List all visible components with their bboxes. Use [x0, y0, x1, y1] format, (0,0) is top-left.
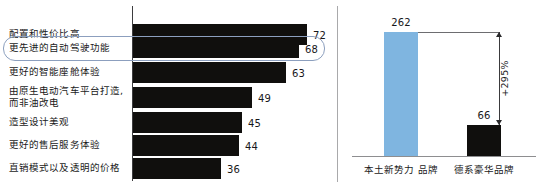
- bar-track: 68: [133, 39, 337, 58]
- horizontal-bar-chart: 配置和性价比高 72 更先进的自动驾驶功能 68 更好的智能座舱体验 63 由原…: [0, 0, 337, 188]
- bar-fill: [133, 39, 299, 58]
- bar-row[interactable]: 更好的智能座舱体验 63: [0, 62, 337, 83]
- bar-row[interactable]: 直销模式以及透明的价格 36: [0, 158, 337, 179]
- bar-fill: [133, 158, 221, 179]
- column-bar-local-brands[interactable]: 262 本土新势力 品牌: [384, 32, 418, 156]
- bar-row-label: 更好的智能座舱体验: [9, 66, 129, 78]
- delta-percentage-label: +295%: [499, 59, 510, 99]
- bar-value-label: 45: [248, 117, 261, 128]
- bar-row-label: 造型设计美观: [9, 116, 129, 128]
- bar-track: 45: [133, 112, 337, 133]
- column-category-label: 本土新势力 品牌: [364, 162, 438, 176]
- bar-value-label: 36: [227, 163, 240, 174]
- bar-track: 63: [133, 62, 337, 83]
- bar-row-label: 配置和性价比高: [9, 28, 129, 40]
- column-category-label: 德系豪华品牌: [454, 162, 515, 176]
- bar-fill: [133, 62, 286, 83]
- chart-figure: 配置和性价比高 72 更先进的自动驾驶功能 68 更好的智能座舱体验 63 由原…: [0, 0, 545, 188]
- bar-value-label: 68: [305, 43, 318, 54]
- bar-row-label: 由原生电动汽车平台打造, 而非油改电: [9, 85, 129, 108]
- bar-fill: [133, 112, 242, 133]
- bar-row-label: 直销模式以及透明的价格: [9, 162, 129, 174]
- bar-track: 36: [133, 158, 337, 179]
- right-chart-baseline: [352, 156, 536, 157]
- leader-line-top: [418, 32, 499, 33]
- bar-value-label: 44: [245, 140, 258, 151]
- bar-row[interactable]: 造型设计美观 45: [0, 112, 337, 133]
- column-bar-german-luxury[interactable]: 66 德系豪华品牌: [467, 125, 501, 156]
- bar-row[interactable]: 由原生电动汽车平台打造, 而非油改电 49: [0, 87, 337, 108]
- bar-fill: [133, 87, 252, 108]
- bar-row-label: 更先进的自动驾驶功能: [9, 42, 129, 54]
- bar-row[interactable]: 更好的售后服务体验 44: [0, 135, 337, 156]
- bar-row-label: 更好的售后服务体验: [9, 139, 129, 151]
- bar-value-label: 63: [292, 67, 305, 78]
- vertical-column-chart: 262 本土新势力 品牌 66 德系豪华品牌 +295%: [338, 0, 545, 188]
- bar-value-label: 49: [258, 92, 271, 103]
- column-value-label: 262: [391, 17, 411, 28]
- bar-fill: [133, 135, 239, 156]
- bar-track: 49: [133, 87, 337, 108]
- bar-row-highlighted[interactable]: 更先进的自动驾驶功能 68: [0, 39, 337, 58]
- bar-track: 44: [133, 135, 337, 156]
- arrow-head-up-icon: [496, 32, 502, 37]
- column-value-label: 66: [477, 110, 490, 121]
- arrow-head-down-icon: [496, 120, 502, 125]
